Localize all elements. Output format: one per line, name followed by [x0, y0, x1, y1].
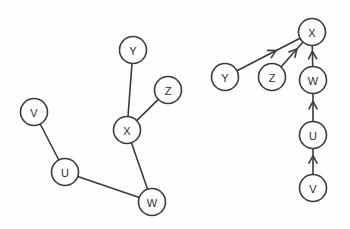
node-label-y: Y: [129, 45, 137, 57]
edge-v-u: [40, 124, 59, 160]
edge-x-y: [128, 63, 132, 116]
node-label-v: V: [30, 107, 38, 119]
node-u[interactable]: U: [300, 122, 327, 149]
node-y[interactable]: Y: [212, 64, 239, 91]
node-label-z: Z: [165, 85, 172, 97]
node-w[interactable]: W: [139, 189, 166, 216]
node-x[interactable]: X: [114, 117, 141, 144]
graph-canvas: VUWXYZXYZWUV: [0, 0, 350, 229]
node-x[interactable]: X: [299, 19, 326, 46]
edges-layer: [40, 38, 317, 197]
node-label-y: Y: [221, 72, 229, 84]
edge-u-w: [78, 176, 139, 197]
node-label-u: U: [309, 130, 317, 142]
graph-figure: VUWXYZXYZWUV: [0, 0, 350, 229]
node-w[interactable]: W: [300, 67, 327, 94]
node-label-w: W: [147, 197, 158, 209]
edge-x-z: [137, 99, 159, 120]
node-z[interactable]: Z: [155, 77, 182, 104]
node-y[interactable]: Y: [120, 37, 147, 64]
node-label-v: V: [309, 183, 317, 195]
node-label-u: U: [61, 167, 69, 179]
node-label-z: Z: [269, 72, 276, 84]
edge-w-x: [131, 143, 147, 189]
node-label-x: X: [123, 125, 131, 137]
node-z[interactable]: Z: [259, 64, 286, 91]
node-label-x: X: [308, 27, 316, 39]
node-v[interactable]: V: [21, 99, 48, 126]
node-u[interactable]: U: [52, 159, 79, 186]
node-label-w: W: [308, 75, 319, 87]
node-v[interactable]: V: [300, 175, 327, 202]
